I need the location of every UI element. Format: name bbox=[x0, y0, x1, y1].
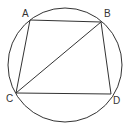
segment-bd bbox=[101, 22, 111, 94]
label-d: D bbox=[113, 95, 120, 106]
segment-ab bbox=[30, 20, 101, 22]
label-c: C bbox=[6, 93, 13, 104]
circumscribed-circle bbox=[8, 8, 122, 122]
segment-dc bbox=[16, 93, 111, 94]
label-a: A bbox=[22, 8, 29, 19]
cyclic-quadrilateral-diagram: A B C D bbox=[0, 0, 129, 130]
segments bbox=[16, 20, 111, 94]
label-b: B bbox=[104, 8, 111, 19]
segment-bc bbox=[16, 22, 101, 93]
segment-ca bbox=[16, 20, 30, 93]
